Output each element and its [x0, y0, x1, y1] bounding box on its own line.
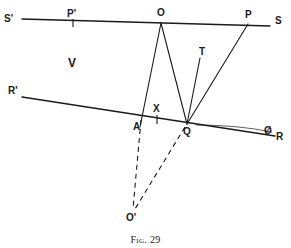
label-q: Q	[183, 127, 191, 137]
line-rr-prime	[22, 97, 275, 136]
label-o-prime: O'	[126, 213, 136, 223]
label-a: A	[133, 122, 140, 132]
label-p-prime: P'	[67, 9, 76, 19]
line-q-to-p	[187, 24, 248, 124]
label-o: O	[157, 8, 165, 18]
label-v: V	[68, 57, 76, 69]
line-q-to-o-prime-dashed	[135, 127, 185, 209]
label-p: P	[245, 10, 252, 20]
label-t: T	[199, 47, 205, 57]
figure-caption: Fig. 29	[0, 234, 291, 245]
geometry-figure: S' P' O P S T V R' A X Q Ø R O' Fig. 29	[0, 0, 291, 248]
label-s-prime: S'	[4, 14, 13, 24]
label-x: X	[153, 104, 160, 114]
label-r: R	[276, 132, 283, 142]
label-r-prime: R'	[8, 86, 18, 96]
figure-drawing	[0, 0, 291, 248]
caption-number: 29	[150, 234, 161, 245]
line-a-to-o-prime-dashed	[133, 120, 141, 209]
caption-prefix: Fig.	[130, 234, 147, 245]
line-o-to-q	[161, 23, 187, 124]
label-s: S	[275, 16, 282, 26]
label-phi: Ø	[264, 126, 272, 136]
line-ss-prime	[22, 19, 270, 26]
